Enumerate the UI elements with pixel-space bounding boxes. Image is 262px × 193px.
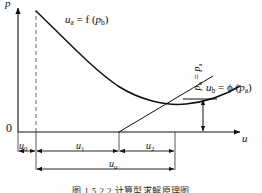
u2-sub: 2 bbox=[151, 145, 154, 152]
origin-label: 0 bbox=[6, 122, 12, 134]
u1-sub: 1 bbox=[81, 145, 84, 152]
figure-root: p u 0 ua = f (pb) ub = ϕ (pa) pb = pa u0… bbox=[0, 0, 262, 193]
pressure-rhs-var: p bbox=[191, 67, 202, 72]
figure-caption: 图 1.5 2.2 计算型求解原理图 bbox=[0, 184, 262, 193]
dimension-label-u2: u2 bbox=[146, 141, 154, 153]
curve-b-eq: = ϕ ( bbox=[215, 81, 239, 93]
curve-a-eq: = f ( bbox=[74, 13, 96, 25]
ua-sub: a bbox=[114, 163, 117, 170]
pressure-eq-sign: = bbox=[191, 72, 202, 83]
y-axis-label: p bbox=[5, 0, 11, 9]
pressure-lhs-var: p bbox=[191, 86, 202, 91]
pressure-rhs-sub: a bbox=[196, 63, 203, 66]
pressure-lhs-sub: b bbox=[196, 82, 203, 85]
diagram-canvas bbox=[0, 0, 262, 193]
x-axis-label: u bbox=[242, 133, 248, 144]
dimension-label-u1: u1 bbox=[76, 141, 84, 153]
dimension-label-u0: u0 bbox=[19, 141, 27, 153]
curve-b-close: ) bbox=[248, 81, 252, 93]
demand-curve-a-label: ua = f (pb) bbox=[65, 14, 109, 27]
pressure-equality-label: pb = pa bbox=[192, 56, 204, 98]
supply-curve-b-label: ub = ϕ (pa) bbox=[206, 82, 252, 95]
curve-a-close: ) bbox=[105, 13, 109, 25]
u0-sub: 0 bbox=[24, 145, 27, 152]
dimension-label-ua: ua bbox=[109, 159, 117, 171]
